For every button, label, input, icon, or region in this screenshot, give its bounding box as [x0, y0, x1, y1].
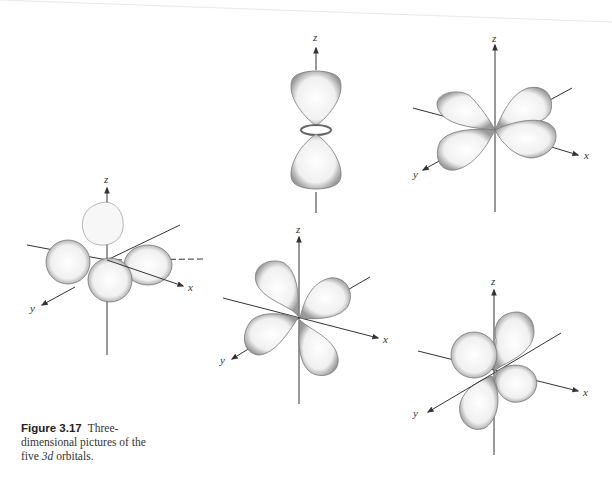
figure-label: Figure 3.17 — [21, 422, 82, 434]
z-axis-label: z — [295, 223, 301, 235]
upper-lobe — [291, 71, 341, 126]
orbitals-figure: z z x y z x y z — [0, 0, 612, 477]
orbital-dyz: z x y — [412, 275, 588, 455]
orbital-dz2: z — [291, 31, 341, 213]
figure-caption: Figure 3.17Three-dimensional pictures of… — [21, 421, 161, 463]
caption-text-italic: 3d — [42, 450, 54, 462]
z-axis-label: z — [312, 31, 318, 43]
y-axis — [42, 287, 75, 305]
orbital-dx2-y2: z x y — [27, 173, 203, 355]
orbital-dxz: z x y — [219, 223, 388, 404]
y-axis-label: y — [29, 302, 35, 314]
z-axis-label: z — [491, 32, 497, 44]
z-axis-label: z — [103, 173, 109, 185]
x-axis-label: x — [382, 333, 388, 345]
y-axis-label: y — [219, 354, 225, 366]
x-axis-label: x — [582, 386, 588, 398]
x-axis-label: x — [583, 149, 589, 161]
lower-lobe — [291, 134, 341, 189]
caption-text-2: orbitals. — [53, 450, 93, 462]
y-axis-label: y — [412, 407, 418, 419]
y-axis-label: y — [412, 168, 418, 180]
z-axis-label: z — [490, 275, 496, 287]
orbital-dxy: z x y — [412, 32, 589, 212]
x-axis-label: x — [187, 281, 193, 293]
